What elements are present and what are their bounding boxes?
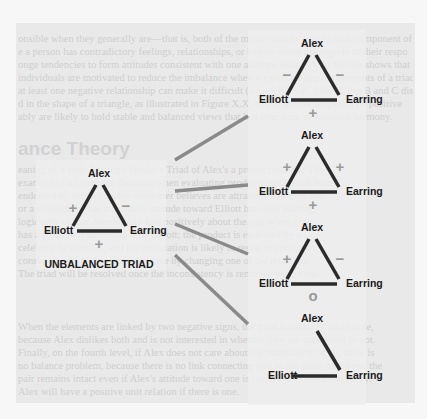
node-alex: Alex	[301, 221, 323, 233]
sign-alex-elliott: +	[283, 158, 292, 175]
connector-line-1	[175, 116, 248, 160]
node-alex: Alex	[301, 312, 323, 324]
node-elliott: Elliott	[259, 185, 289, 197]
sign-elliott-earring: +	[95, 235, 104, 252]
connector-line-4	[175, 255, 248, 324]
node-earring: Earring	[130, 224, 167, 236]
node-elliott: Elliott	[44, 224, 74, 236]
sign-alex-elliott: +	[69, 199, 78, 216]
node-elliott: Elliott	[259, 93, 289, 105]
node-alex: Alex	[301, 37, 323, 49]
sign-alex-earring: −	[336, 250, 345, 267]
node-elliott: Elliott	[259, 277, 289, 289]
node-alex: Alex	[88, 167, 110, 179]
connector-line-2	[175, 185, 248, 191]
sign-elliott-earring: o	[308, 287, 317, 304]
sign-alex-elliott: +	[283, 250, 292, 267]
node-earring: Earring	[346, 369, 383, 381]
sign-alex-earring: −	[336, 66, 345, 83]
node-earring: Earring	[346, 277, 383, 289]
connector-line-3	[175, 224, 248, 254]
node-alex: Alex	[301, 129, 323, 141]
caption-unbalanced-triad: UNBALANCED TRIAD	[44, 258, 153, 270]
sign-elliott-earring: +	[309, 196, 318, 213]
balance-theory-diagram: Alex Elliott Earring + − + UNBALANCED TR…	[0, 0, 427, 419]
sign-alex-earring: +	[336, 158, 345, 175]
connector-lines	[175, 116, 248, 324]
sign-alex-elliott: −	[283, 66, 292, 83]
sign-elliott-earring: +	[309, 104, 318, 121]
node-earring: Earring	[346, 185, 383, 197]
node-earring: Earring	[346, 93, 383, 105]
sign-alex-earring: −	[122, 197, 131, 214]
